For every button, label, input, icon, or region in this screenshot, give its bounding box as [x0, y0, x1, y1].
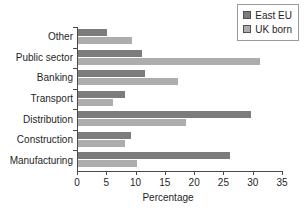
y-axis-tick	[73, 48, 77, 49]
x-axis-tick	[223, 171, 224, 175]
bar-uk-born	[78, 119, 186, 126]
y-axis-label-banking: Banking	[1, 72, 73, 83]
x-axis-tick	[165, 171, 166, 175]
bar-group	[78, 27, 282, 48]
x-axis-tick	[253, 171, 254, 175]
bar-uk-born	[78, 58, 260, 65]
bar-group	[78, 150, 282, 171]
y-axis-tick	[73, 27, 77, 28]
y-axis-tick	[73, 109, 77, 110]
y-axis-label-other: Other	[1, 31, 73, 42]
bar-east-eu	[78, 70, 145, 77]
y-axis-label-construction: Construction	[1, 134, 73, 145]
x-axis-line	[77, 171, 282, 172]
bar-group	[78, 109, 282, 130]
bar-group	[78, 89, 282, 110]
x-axis-tick	[194, 171, 195, 175]
bar-uk-born	[78, 160, 137, 167]
y-axis-label-manufacturing: Manufacturing	[1, 155, 73, 166]
bar-east-eu	[78, 91, 125, 98]
x-axis-tick-label: 5	[104, 177, 110, 188]
y-axis-labels: OtherPublic sectorBankingTransportDistri…	[0, 27, 73, 171]
legend-label-east-eu: East EU	[255, 10, 292, 21]
x-axis-title: Percentage	[0, 192, 304, 203]
bar-chart: East EU UK born OtherPublic sectorBankin…	[0, 0, 304, 213]
bar-group	[78, 48, 282, 69]
legend-swatch-east-eu	[243, 11, 251, 19]
y-axis-label-transport: Transport	[1, 93, 73, 104]
bar-uk-born	[78, 37, 132, 44]
bar-east-eu	[78, 29, 107, 36]
x-axis-tick-label: 30	[247, 177, 258, 188]
x-axis-tick-label: 0	[74, 177, 80, 188]
bar-east-eu	[78, 132, 131, 139]
bar-group	[78, 68, 282, 89]
y-axis-tick	[73, 68, 77, 69]
x-axis-tick	[136, 171, 137, 175]
bar-east-eu	[78, 111, 251, 118]
x-axis-tick-label: 25	[218, 177, 229, 188]
bar-group	[78, 130, 282, 151]
plot-area: 05101520253035	[77, 27, 282, 171]
x-axis-tick	[106, 171, 107, 175]
bar-east-eu	[78, 50, 142, 57]
x-axis-tick-label: 15	[159, 177, 170, 188]
x-axis-tick-label: 10	[130, 177, 141, 188]
y-axis-label-distribution: Distribution	[1, 114, 73, 125]
x-axis-tick	[77, 171, 78, 175]
bar-uk-born	[78, 140, 125, 147]
x-axis-tick-label: 35	[276, 177, 287, 188]
y-axis-tick	[73, 130, 77, 131]
y-axis-tick	[73, 150, 77, 151]
y-axis-tick	[73, 89, 77, 90]
bar-uk-born	[78, 99, 113, 106]
legend-item-east-eu: East EU	[243, 8, 292, 22]
bar-uk-born	[78, 78, 178, 85]
bar-east-eu	[78, 152, 230, 159]
x-axis-tick-label: 20	[189, 177, 200, 188]
y-axis-label-public-sector: Public sector	[1, 52, 73, 63]
x-axis-tick	[282, 171, 283, 175]
